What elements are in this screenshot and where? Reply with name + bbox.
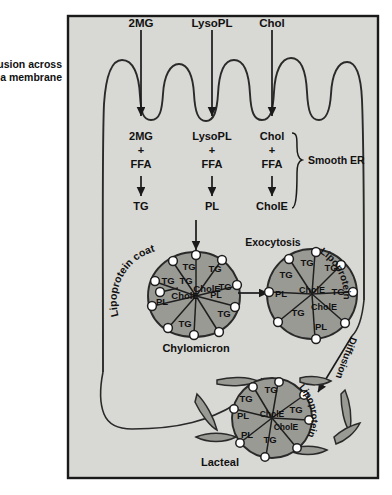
pathway-product-chole: CholE bbox=[256, 200, 288, 212]
substrate-label-chol: Chol bbox=[259, 17, 285, 29]
svg-text:CholE: CholE bbox=[274, 422, 299, 432]
svg-text:CholE: CholE bbox=[311, 302, 337, 312]
pathway-plus-1: + bbox=[138, 144, 144, 156]
diffusion-caption-line1: Diffusion across bbox=[0, 58, 62, 70]
svg-text:TG: TG bbox=[300, 257, 313, 268]
pathway-product-pl: PL bbox=[205, 200, 219, 212]
pathway-cofactor-2: FFA bbox=[202, 158, 223, 170]
diffusion-caption-line2: plasma membrane bbox=[0, 71, 62, 83]
svg-text:CholE: CholE bbox=[299, 285, 325, 295]
figure-canvas: 2MG LysoPL Chol 2MG + FFA TG LysoPL + FF… bbox=[0, 0, 392, 495]
svg-text:CholE: CholE bbox=[193, 283, 220, 294]
svg-text:TG: TG bbox=[178, 318, 191, 329]
lacteal-label: Lacteal bbox=[201, 456, 239, 468]
pathway-cofactor-3: FFA bbox=[262, 158, 283, 170]
substrate-label-2mg: 2MG bbox=[129, 17, 154, 29]
diagram-svg: 2MG LysoPL Chol 2MG + FFA TG LysoPL + FF… bbox=[0, 0, 392, 495]
svg-text:TG: TG bbox=[289, 404, 302, 415]
svg-text:CholE: CholE bbox=[260, 409, 285, 419]
svg-text:PL: PL bbox=[156, 296, 168, 307]
pathway-plus-3: + bbox=[269, 144, 275, 156]
svg-text:PL: PL bbox=[241, 429, 253, 440]
svg-text:TG: TG bbox=[161, 275, 174, 286]
svg-text:TG: TG bbox=[217, 308, 230, 319]
svg-text:TG: TG bbox=[179, 275, 192, 286]
svg-text:TG: TG bbox=[182, 261, 195, 272]
chylomicron-name-label: Chylomicron bbox=[162, 342, 230, 354]
pathway-product-tg: TG bbox=[133, 200, 148, 212]
svg-text:PL: PL bbox=[275, 288, 287, 299]
exocytosis-label: Exocytosis bbox=[245, 236, 301, 248]
pathway-substrate-2mg: 2MG bbox=[129, 130, 153, 142]
svg-text:TG: TG bbox=[279, 269, 292, 280]
smooth-er-label: Smooth ER bbox=[308, 154, 365, 166]
svg-text:TG: TG bbox=[208, 263, 221, 274]
pathway-substrate-chol: Chol bbox=[260, 130, 284, 142]
svg-text:TG: TG bbox=[291, 307, 304, 318]
svg-text:TG: TG bbox=[239, 393, 252, 404]
pathway-substrate-lysopl: LysoPL bbox=[192, 130, 232, 142]
svg-text:TG: TG bbox=[264, 384, 277, 395]
substrate-label-lysopl: LysoPL bbox=[191, 17, 232, 29]
pathway-plus-2: + bbox=[209, 144, 215, 156]
pathway-cofactor-1: FFA bbox=[131, 158, 152, 170]
svg-text:PL: PL bbox=[237, 410, 249, 421]
svg-text:PL: PL bbox=[315, 321, 327, 332]
svg-text:TG: TG bbox=[263, 434, 276, 445]
